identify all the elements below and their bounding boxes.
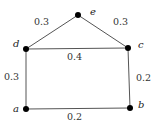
edge-weight-d-e: 0.3 <box>34 16 49 27</box>
node-label-b: b <box>138 99 144 110</box>
edge-weight-d-c: 0.4 <box>67 51 82 62</box>
edge-c-b <box>128 48 130 108</box>
node-a <box>23 106 29 112</box>
node-c <box>125 45 131 51</box>
node-label-e: e <box>90 6 96 17</box>
node-label-d: d <box>13 38 19 49</box>
graph-edges <box>26 15 130 109</box>
edge-a-b <box>26 108 130 109</box>
weighted-graph-diagram: 0.30.30.40.30.20.2 abcde <box>0 0 157 127</box>
node-label-a: a <box>13 103 19 114</box>
node-d <box>23 46 29 52</box>
node-b <box>127 105 133 111</box>
edge-d-c <box>26 48 128 49</box>
node-e <box>75 12 81 18</box>
node-label-c: c <box>138 39 144 50</box>
edge-weight-e-c: 0.3 <box>113 16 128 27</box>
edge-weight-d-a: 0.3 <box>4 71 19 82</box>
edge-weight-a-b: 0.2 <box>67 111 82 122</box>
graph-nodes <box>23 12 133 112</box>
edge-weight-c-b: 0.2 <box>136 72 151 83</box>
